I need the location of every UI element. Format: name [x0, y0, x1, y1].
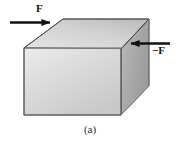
force-label-minus-f: −F — [152, 45, 165, 56]
block-front-face — [24, 48, 121, 115]
physics-force-block-figure: F −F (a) — [0, 0, 180, 144]
force-label-f: F — [36, 3, 43, 14]
figure-caption: (a) — [0, 124, 180, 135]
